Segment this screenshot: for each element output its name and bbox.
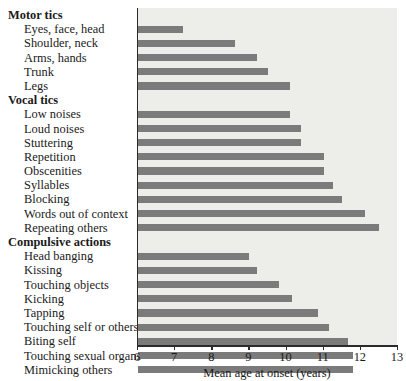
bar: [138, 210, 365, 217]
x-axis-tick-label: 6: [134, 350, 140, 365]
bar: [138, 26, 183, 33]
group-label-vocal-tics: Vocal tics: [0, 93, 137, 107]
category-label: Low noises: [0, 107, 137, 121]
group-header-spacer: [138, 93, 397, 107]
category-label: Legs: [0, 79, 137, 93]
bar-row: [138, 36, 397, 50]
bar-row: [138, 107, 397, 121]
bar: [138, 182, 333, 189]
category-label: Touching self or others: [0, 320, 137, 334]
bar-row: [138, 320, 397, 334]
bar: [138, 82, 290, 89]
bar: [138, 54, 257, 61]
x-axis-tick-label: 11: [317, 350, 329, 365]
bar-row: [138, 136, 397, 150]
x-axis-tick-label: 13: [391, 350, 403, 365]
bar: [138, 196, 342, 203]
category-label: Kissing: [0, 263, 137, 277]
bar: [138, 125, 301, 132]
group-header-spacer: [138, 8, 397, 22]
bar: [138, 309, 318, 316]
bar: [138, 167, 324, 174]
category-label: Blocking: [0, 192, 137, 206]
category-label: Biting self: [0, 334, 137, 348]
bar-row: [138, 292, 397, 306]
bar-row: [138, 51, 397, 65]
bar-row: [138, 79, 397, 93]
category-label: Obscenities: [0, 164, 137, 178]
category-label: Head banging: [0, 249, 137, 263]
bar: [138, 281, 279, 288]
category-label: Arms, hands: [0, 51, 137, 65]
bar: [138, 153, 324, 160]
bar-row: [138, 22, 397, 36]
category-label-column: Motor tics Eyes, face, head Shoulder, ne…: [0, 8, 137, 377]
bar-row: [138, 249, 397, 263]
bar-row: [138, 192, 397, 206]
group-label-compulsive-actions: Compulsive actions: [0, 235, 137, 249]
category-label: Kicking: [0, 292, 137, 306]
bar-row: [138, 207, 397, 221]
bar-row: [138, 178, 397, 192]
bar-row: [138, 221, 397, 235]
bar: [138, 224, 379, 231]
bar-row: [138, 150, 397, 164]
bar: [138, 68, 268, 75]
x-axis-tick-label: 8: [208, 350, 214, 365]
category-label: Touching sexual organs: [0, 349, 137, 363]
bar-row: [138, 164, 397, 178]
bar: [138, 139, 301, 146]
category-label: Touching objects: [0, 278, 137, 292]
category-label: Eyes, face, head: [0, 22, 137, 36]
category-label: Shoulder, neck: [0, 36, 137, 50]
bar: [138, 40, 235, 47]
category-label: Tapping: [0, 306, 137, 320]
bar-row: [138, 263, 397, 277]
bar: [138, 253, 249, 260]
group-header-spacer: [138, 235, 397, 249]
bar-chart-figure: Motor tics Eyes, face, head Shoulder, ne…: [0, 0, 406, 381]
category-label: Mimicking others: [0, 363, 137, 377]
x-axis-title: Mean age at onset (years): [137, 366, 397, 381]
bar: [138, 338, 348, 345]
x-axis-tick-label: 7: [171, 350, 177, 365]
x-axis-tick-label: 12: [354, 350, 366, 365]
category-label: Loud noises: [0, 122, 137, 136]
group-label-motor-tics: Motor tics: [0, 8, 137, 22]
x-axis-line: [137, 345, 397, 347]
plot-area: [137, 8, 397, 345]
x-axis-tick-label: 10: [279, 350, 291, 365]
bar: [138, 295, 292, 302]
bar-row: [138, 122, 397, 136]
x-axis-tick-label: 9: [245, 350, 251, 365]
category-label: Repeating others: [0, 221, 137, 235]
category-label: Trunk: [0, 65, 137, 79]
bar-row: [138, 65, 397, 79]
category-label: Words out of context: [0, 207, 137, 221]
bar: [138, 324, 329, 331]
bar-row: [138, 278, 397, 292]
category-label: Stuttering: [0, 136, 137, 150]
bar-row: [138, 306, 397, 320]
bar: [138, 111, 290, 118]
category-label: Repetition: [0, 150, 137, 164]
bar: [138, 267, 257, 274]
category-label: Syllables: [0, 178, 137, 192]
